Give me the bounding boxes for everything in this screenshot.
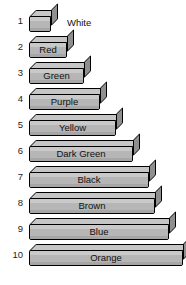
rod-color-label: White: [67, 10, 91, 36]
rod-front-face: Red: [29, 42, 67, 58]
rod-color-label: Black: [30, 173, 148, 187]
cuisenaire-rod: Blue: [29, 218, 169, 240]
rod-front-face: Yellow: [29, 120, 116, 136]
rod-color-label: Dark Green: [30, 147, 132, 161]
cuisenaire-rod: Black: [29, 166, 149, 188]
rod-front-face: Green: [29, 68, 84, 84]
rod-row: 8Brown: [0, 192, 186, 218]
rod-row: 10Orange: [0, 244, 186, 270]
rod-row: 3Green: [0, 62, 186, 88]
rod-index-label: 10: [0, 244, 23, 266]
rod-front-face: Purple: [29, 94, 100, 110]
rod-color-label: Green: [30, 69, 83, 83]
rod-color-label: Purple: [30, 95, 99, 109]
rod-index-label: 1: [0, 10, 23, 32]
rod-front-face: [29, 16, 51, 32]
rod-front-face: Brown: [29, 198, 155, 214]
rod-row: 1White: [0, 10, 186, 36]
cuisenaire-rod: Brown: [29, 192, 155, 214]
cuisenaire-rod: Yellow: [29, 114, 116, 136]
cuisenaire-rod: Orange: [29, 244, 183, 266]
rod-front-face: Black: [29, 172, 149, 188]
rod-color-label: Yellow: [30, 121, 115, 135]
rod-front-face: Blue: [29, 224, 169, 240]
rod-row: 6Dark Green: [0, 140, 186, 166]
cuisenaire-rods-chart: 1White2Red3Green4Purple5Yellow6Dark Gree…: [0, 0, 186, 285]
rod-index-label: 2: [0, 36, 23, 58]
cuisenaire-rod: [29, 10, 51, 32]
rod-row: 2Red: [0, 36, 186, 62]
rod-color-label: Orange: [30, 251, 182, 265]
rod-row: 9Blue: [0, 218, 186, 244]
rod-row: 4Purple: [0, 88, 186, 114]
rod-row: 5Yellow: [0, 114, 186, 140]
rod-index-label: 7: [0, 166, 23, 188]
rod-index-label: 9: [0, 218, 23, 240]
cuisenaire-rod: Dark Green: [29, 140, 133, 162]
rod-index-label: 4: [0, 88, 23, 110]
rod-index-label: 8: [0, 192, 23, 214]
cuisenaire-rod: Purple: [29, 88, 100, 110]
rod-front-face: Dark Green: [29, 146, 133, 162]
rod-index-label: 5: [0, 114, 23, 136]
rod-front-face: Orange: [29, 250, 183, 266]
rod-index-label: 3: [0, 62, 23, 84]
rod-side-face: [51, 3, 58, 26]
cuisenaire-rod: Green: [29, 62, 84, 84]
rod-color-label: Blue: [30, 225, 168, 239]
rod-color-label: Brown: [30, 199, 154, 213]
rod-index-label: 6: [0, 140, 23, 162]
cuisenaire-rod: Red: [29, 36, 67, 58]
rod-color-label: Red: [30, 43, 66, 57]
